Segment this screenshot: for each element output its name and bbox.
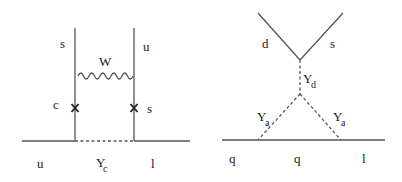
left-diagram: s u W c s u Y c l bbox=[22, 28, 190, 174]
label-y-subscript-a-left: a bbox=[265, 117, 270, 128]
label-l-right: l bbox=[362, 151, 366, 166]
label-q-middle: q bbox=[294, 151, 301, 166]
label-s-top-left: s bbox=[60, 36, 65, 51]
label-y-subscript-a-right: a bbox=[341, 117, 346, 128]
label-y-subscript-d: d bbox=[311, 79, 316, 90]
label-y-subscript-c: c bbox=[103, 163, 108, 174]
feynman-diagrams: s u W c s u Y c l d s Y d Y a Y a q q l bbox=[0, 0, 402, 182]
label-l-lepton: l bbox=[151, 156, 155, 171]
label-u-bottom: u bbox=[37, 156, 44, 171]
label-d-quark: d bbox=[262, 36, 269, 51]
label-c-quark: c bbox=[53, 97, 59, 112]
w-boson-wavy-line bbox=[78, 73, 133, 79]
label-s-quark: s bbox=[147, 101, 152, 116]
label-q-left: q bbox=[229, 151, 236, 166]
label-w-boson: W bbox=[99, 54, 112, 69]
label-u-top-right: u bbox=[143, 39, 150, 54]
label-s-quark-right: s bbox=[330, 36, 335, 51]
s-quark-line bbox=[300, 13, 343, 60]
right-diagram: d s Y d Y a Y a q q l bbox=[222, 13, 385, 166]
